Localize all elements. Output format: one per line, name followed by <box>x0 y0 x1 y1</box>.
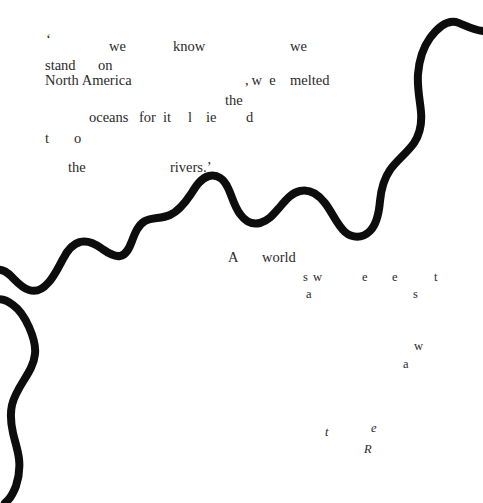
poem-word-l: l <box>188 110 192 125</box>
poem-word-o: o <box>74 131 81 146</box>
poem-word-we-2: we <box>290 39 307 54</box>
poem-word-oceans: oceans <box>89 110 128 125</box>
poem-word-letter-e-2: e <box>392 271 398 284</box>
poem-word-melted: melted <box>290 73 329 88</box>
poem-word-d: d <box>246 110 253 125</box>
poem-word-letter-s-2: s <box>413 288 418 301</box>
poem-word-we-1: we <box>109 39 126 54</box>
poem-word-letter-w-1: w <box>313 271 322 284</box>
poem-word-ie: ie <box>206 110 216 125</box>
poem-word-the-1: the <box>225 93 243 108</box>
visual-poem-page: ‘weknowwestandonNorth America, w emelted… <box>0 0 483 503</box>
poem-word-letter-s-1: s <box>303 271 308 284</box>
poem-word-know: know <box>173 39 205 54</box>
poem-word-t: t <box>45 131 49 146</box>
poem-word-letter-t-2: t <box>325 426 328 439</box>
poem-word-letter-e-3: e <box>371 422 377 435</box>
poem-word-letter-r: R <box>364 443 372 456</box>
poem-word-letter-e-1: e <box>362 271 368 284</box>
poem-word-letter-w-2: w <box>414 340 423 353</box>
poem-word-a-capital: A <box>228 250 238 265</box>
poem-word-world: world <box>262 250 296 265</box>
poem-word-comma-w-e: , w e <box>245 73 276 88</box>
poem-word-letter-a-2: a <box>403 358 409 371</box>
poem-word-north-america: North America <box>45 73 132 88</box>
poem-word-for: for <box>139 110 156 125</box>
poem-word-stand: stand <box>45 58 76 73</box>
poem-word-on: on <box>98 58 113 73</box>
poem-word-letter-a-1: a <box>306 288 312 301</box>
poem-word-it: it <box>163 110 171 125</box>
poem-word-open-quote: ‘ <box>46 32 51 47</box>
poem-word-the-2: the <box>68 160 86 175</box>
poem-word-letter-t-1: t <box>434 271 437 284</box>
poem-word-rivers: rivers.’ <box>170 160 211 175</box>
